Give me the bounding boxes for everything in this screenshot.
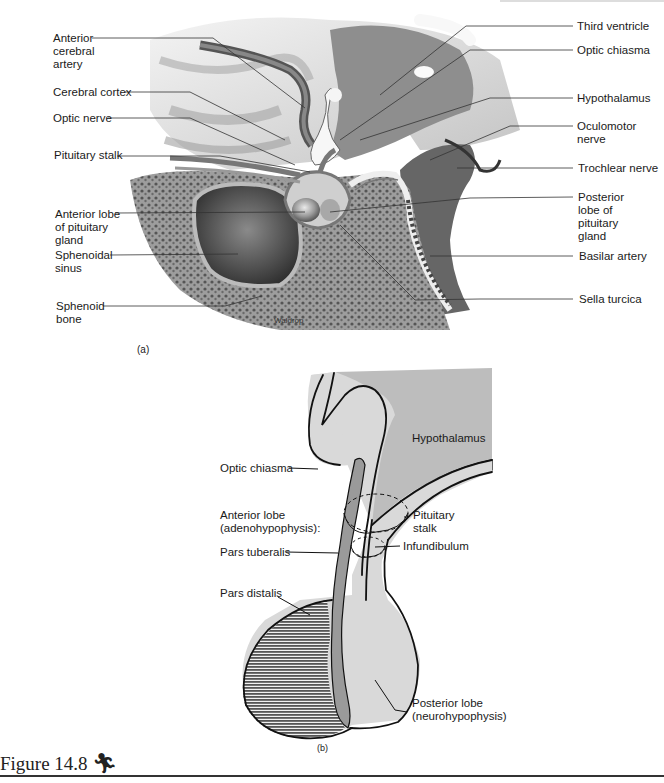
figure-caption: Figure 14.8 🏃︎ <box>0 751 117 775</box>
label-line: Pituitary <box>413 509 455 522</box>
figure-number: Figure 14.8 <box>0 753 88 774</box>
label-cerebral-cortex: Cerebral cortex <box>53 86 132 99</box>
label-third-ventricle: Third ventricle <box>577 20 649 33</box>
label-trochlear-nerve: Trochlear nerve <box>578 162 658 175</box>
label-line: nerve <box>577 133 636 146</box>
label-line: (adenohypophysis): <box>220 522 320 535</box>
label-line: (neurohypophysis) <box>412 710 507 723</box>
artist-signature: Waldrop <box>274 314 304 327</box>
label-posterior-lobe-pituitary: Posterior lobe of pituitary gland <box>578 191 624 243</box>
label-sella-turcica: Sella turcica <box>579 293 642 306</box>
label-line: Anterior <box>53 32 95 45</box>
label-b-infundibulum: Infundibulum <box>403 540 469 553</box>
label-b-posterior-lobe: Posterior lobe (neurohypophysis) <box>412 697 507 723</box>
label-line: cerebral <box>53 45 95 58</box>
panel-b-label: (b) <box>317 742 328 755</box>
label-line: artery <box>53 58 95 71</box>
label-line: Sphenoidal <box>55 249 113 262</box>
label-anterior-lobe-pituitary: Anterior lobe of pituitary gland <box>55 208 120 247</box>
label-line: Sphenoid <box>56 300 105 313</box>
label-line: of pituitary <box>55 221 120 234</box>
label-anterior-cerebral-artery: Anterior cerebral artery <box>53 32 95 71</box>
label-pituitary-stalk: Pituitary stalk <box>54 149 122 162</box>
label-line: Anterior lobe <box>220 509 320 522</box>
label-optic-nerve: Optic nerve <box>53 112 112 125</box>
label-line: Posterior <box>578 191 624 204</box>
label-b-pars-distalis: Pars distalis <box>220 587 282 600</box>
label-line: lobe of <box>578 204 624 217</box>
label-sphenoid-bone: Sphenoid bone <box>56 300 105 326</box>
panel-a-illustration <box>0 0 664 340</box>
label-hypothalamus: Hypothalamus <box>577 92 651 105</box>
label-optic-chiasma: Optic chiasma <box>577 44 650 57</box>
label-b-hypothalamus: Hypothalamus <box>412 432 486 445</box>
label-line: gland <box>578 230 624 243</box>
running-figure-icon: 🏃︎ <box>92 752 117 774</box>
label-line: pituitary <box>578 217 624 230</box>
label-line: sinus <box>55 262 113 275</box>
label-line: stalk <box>413 522 455 535</box>
label-line: Posterior lobe <box>412 697 507 710</box>
panel-a-label: (a) <box>137 343 149 356</box>
label-b-anterior-lobe: Anterior lobe (adenohypophysis): <box>220 509 320 535</box>
label-line: Oculomotor <box>577 120 636 133</box>
label-line: gland <box>55 234 120 247</box>
label-line: bone <box>56 313 105 326</box>
label-b-optic-chiasma: Optic chiasma <box>220 462 293 475</box>
label-line: Anterior lobe <box>55 208 120 221</box>
label-basilar-artery: Basilar artery <box>579 250 647 263</box>
caption-rule <box>0 775 664 777</box>
label-oculomotor-nerve: Oculomotor nerve <box>577 120 636 146</box>
label-b-pituitary-stalk: Pituitary stalk <box>413 509 455 535</box>
label-sphenoidal-sinus: Sphenoidal sinus <box>55 249 113 275</box>
label-b-pars-tuberalis: Pars tuberalis <box>220 546 290 559</box>
